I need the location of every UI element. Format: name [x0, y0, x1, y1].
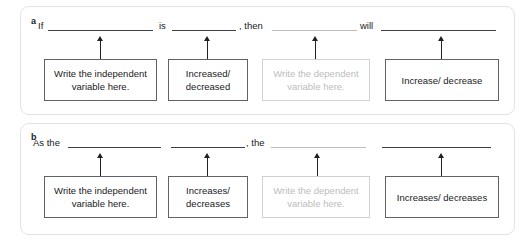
dependent-variable-box[interactable]: Write the dependent variable here. [262, 59, 370, 101]
fill-in-blank-line[interactable] [172, 30, 236, 31]
arrow-head-icon [314, 153, 320, 158]
arrow-head-icon [97, 153, 103, 158]
variable-value-box[interactable]: Increase/ decrease [385, 59, 499, 101]
arrow-stem [100, 158, 101, 176]
sentence-word: is [159, 19, 166, 32]
fill-in-blank-line[interactable] [68, 147, 161, 148]
variable-box-label: Write the independent variable here. [45, 67, 156, 93]
arrow-stem [207, 41, 208, 59]
fill-in-blank-line[interactable] [171, 147, 245, 148]
sentence-word: will [360, 19, 373, 32]
variable-box-label: Increased/ decreased [169, 67, 247, 93]
variable-box-label: Write the dependent variable here. [263, 184, 369, 210]
fill-in-blank-line[interactable] [382, 147, 491, 148]
hypothesis-sentence-frames: a b Ifis, thenwillWrite the independent … [0, 0, 529, 241]
sentence-word: If [38, 19, 43, 32]
fill-in-blank-line[interactable] [381, 30, 496, 31]
fill-in-blank-line[interactable] [271, 147, 366, 148]
sentence-word: , the [246, 136, 265, 149]
variable-box-label: Write the independent variable here. [45, 184, 156, 210]
sentence-word: As the [33, 136, 60, 149]
arrow-head-icon [204, 36, 210, 41]
arrow-head-icon [312, 36, 318, 41]
variable-box-label: Write the dependent variable here. [263, 67, 369, 93]
arrow-head-icon [438, 153, 444, 158]
arrow-stem [317, 158, 318, 176]
arrow-head-icon [204, 153, 210, 158]
dependent-variable-box[interactable]: Write the dependent variable here. [262, 176, 370, 218]
variable-box-label: Increases/ decreases [393, 191, 491, 204]
panel-a-letter: a [31, 17, 36, 26]
sentence-word: , then [239, 19, 263, 32]
fill-in-blank-line[interactable] [272, 30, 357, 31]
variable-value-box[interactable]: Increases/ decreases [168, 176, 248, 218]
variable-value-box[interactable]: Increased/ decreased [168, 59, 248, 101]
variable-value-box[interactable]: Increases/ decreases [385, 176, 499, 218]
variable-value-box[interactable]: Write the independent variable here. [44, 176, 157, 218]
arrow-head-icon [438, 36, 444, 41]
fill-in-blank-line[interactable] [48, 30, 153, 31]
variable-box-label: Increases/ decreases [169, 184, 247, 210]
arrow-stem [100, 41, 101, 59]
arrow-stem [207, 158, 208, 176]
arrow-stem [441, 41, 442, 59]
arrow-stem [441, 158, 442, 176]
variable-value-box[interactable]: Write the independent variable here. [44, 59, 157, 101]
variable-box-label: Increase/ decrease [398, 74, 487, 87]
arrow-stem [315, 41, 316, 59]
arrow-head-icon [97, 36, 103, 41]
